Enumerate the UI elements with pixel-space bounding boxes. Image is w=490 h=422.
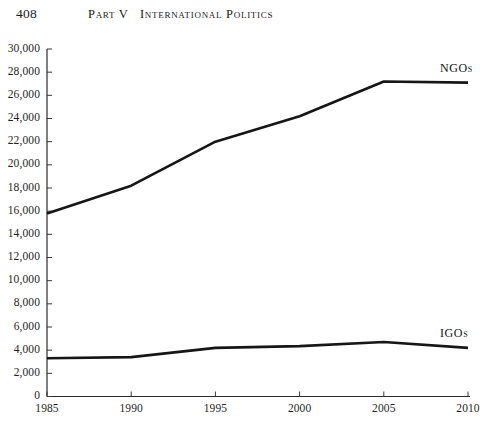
y-tick-label: 22,000 [0, 134, 40, 146]
y-tick-label: 24,000 [0, 111, 40, 123]
x-tick-label: 2010 [438, 402, 490, 414]
y-tick-label: 6,000 [0, 320, 40, 332]
y-axis-ticks [47, 49, 52, 397]
y-tick-label: 18,000 [0, 181, 40, 193]
series-lines [47, 81, 468, 358]
series-label-igos: IGOs [440, 326, 468, 341]
x-axis-ticks [47, 392, 468, 397]
y-tick-label: 26,000 [0, 88, 40, 100]
y-tick-label: 28,000 [0, 65, 40, 77]
x-tick-label: 1990 [101, 402, 161, 414]
y-tick-label: 30,000 [0, 42, 40, 54]
y-tick-label: 4,000 [0, 343, 40, 355]
line-chart: 30,00028,00026,00024,00022,00020,00018,0… [0, 0, 490, 422]
x-tick-label: 2000 [270, 402, 330, 414]
y-tick-label: 10,000 [0, 273, 40, 285]
y-tick-label: 20,000 [0, 157, 40, 169]
x-tick-label: 2005 [354, 402, 414, 414]
x-tick-label: 1995 [185, 402, 245, 414]
series-line-igos [47, 342, 468, 358]
series-line-ngos [47, 81, 468, 213]
y-tick-label: 2,000 [0, 366, 40, 378]
y-tick-label: 12,000 [0, 250, 40, 262]
plot-area [0, 0, 490, 422]
series-label-ngos: NGOs [440, 61, 473, 76]
y-tick-label: 16,000 [0, 204, 40, 216]
y-tick-label: 8,000 [0, 296, 40, 308]
y-tick-label: 0 [0, 389, 40, 401]
x-tick-label: 1985 [17, 402, 77, 414]
y-tick-label: 14,000 [0, 227, 40, 239]
